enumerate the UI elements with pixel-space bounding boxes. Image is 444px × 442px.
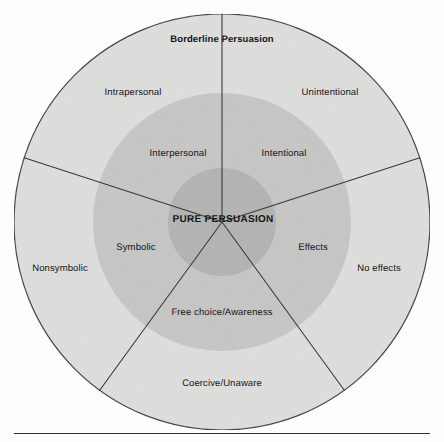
- title-borderline-persuasion: Borderline Persuasion: [170, 34, 273, 45]
- label-pure-persuasion: PURE PERSUASION: [172, 214, 273, 225]
- label-intentional: Intentional: [262, 148, 307, 159]
- label-effects: Effects: [298, 242, 328, 253]
- label-symbolic: Symbolic: [116, 242, 155, 253]
- persuasion-concentric-diagram: Borderline Persuasion Intrapersonal Unin…: [0, 0, 444, 442]
- label-nonsymbolic: Nonsymbolic: [32, 263, 87, 274]
- label-no-effects: No effects: [357, 263, 401, 274]
- label-intrapersonal: Intrapersonal: [105, 87, 162, 98]
- label-interpersonal: Interpersonal: [150, 148, 207, 159]
- label-coercive-unaware: Coercive/Unaware: [182, 378, 262, 389]
- label-free-choice-awareness: Free choice/Awareness: [171, 307, 272, 318]
- label-unintentional: Unintentional: [302, 87, 359, 98]
